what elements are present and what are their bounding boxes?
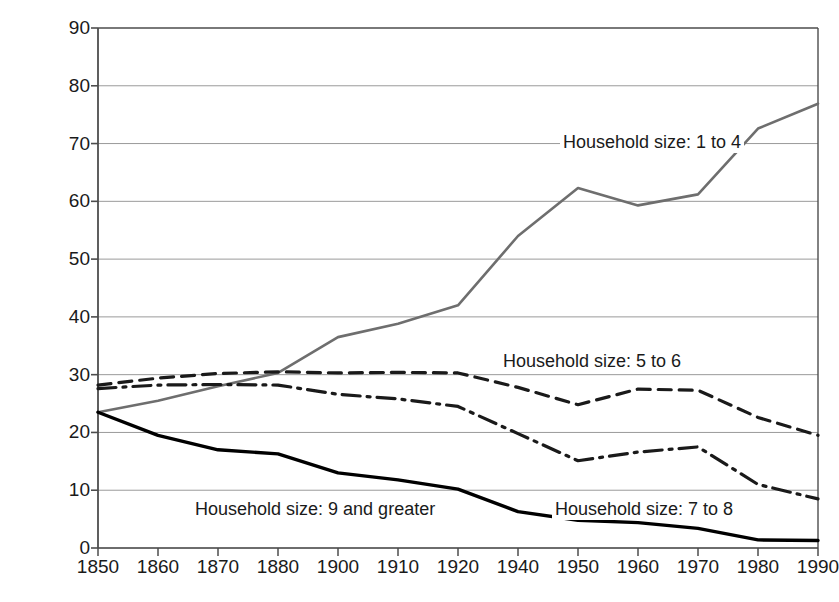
series-line-2: [98, 372, 818, 436]
chart-container: Percentage 0102030405060708090 185018601…: [0, 0, 839, 602]
series-line-4: [98, 412, 818, 540]
series-label-3: Household size: 7 to 8: [552, 498, 736, 520]
series-line-3: [98, 384, 818, 498]
series-label-1: Household size: 1 to 4: [560, 131, 744, 153]
series-label-2: Household size: 5 to 6: [500, 350, 684, 372]
series-label-4: Household size: 9 and greater: [192, 498, 438, 520]
